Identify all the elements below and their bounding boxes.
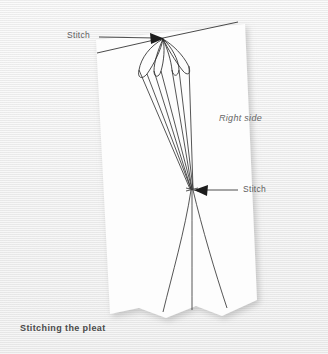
pleat-diagram-figure: Stitch Stitch Right side Stitching the p… [0,0,328,354]
label-stitch-top: Stitch [67,30,90,40]
pleat-illustration [0,0,328,354]
fabric-shape [96,24,257,318]
label-right-side: Right side [219,113,262,123]
fabric-panel [96,24,257,318]
figure-caption: Stitching the pleat [20,323,106,333]
label-stitch-middle: Stitch [243,184,266,194]
